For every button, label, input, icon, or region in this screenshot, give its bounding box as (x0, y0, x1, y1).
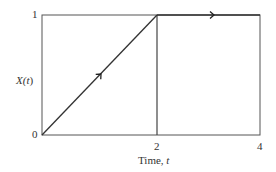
x-tick-4: 4 (257, 141, 263, 152)
chart-plot (0, 0, 276, 172)
y-tick-0: 0 (32, 129, 38, 140)
ramp-line (42, 15, 157, 135)
y-tick-1: 1 (32, 9, 38, 20)
x-tick-2: 2 (154, 141, 160, 152)
y-axis-label: X(t) (16, 75, 33, 86)
x-axis-label: Time, t (138, 155, 169, 166)
plot-frame (42, 15, 260, 135)
